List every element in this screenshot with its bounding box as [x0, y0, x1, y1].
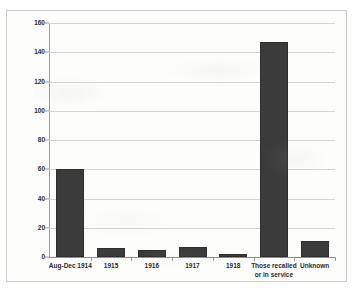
bar: [97, 248, 125, 257]
bar: [138, 250, 166, 257]
bar: [260, 42, 288, 257]
y-axis-tick-marks: [7, 23, 51, 257]
x-axis-tick-label: Unknown: [288, 262, 341, 271]
x-axis-tick-mark: [294, 257, 295, 261]
x-axis-tick-mark: [213, 257, 214, 261]
bar: [56, 169, 84, 257]
x-axis-tick-labels: Aug-Dec 19141915191619171918Those recall…: [50, 262, 335, 286]
bar-series: [50, 23, 335, 257]
x-axis-tick-mark: [131, 257, 132, 261]
x-axis-tick-mark: [172, 257, 173, 261]
bar: [179, 247, 207, 257]
x-axis-tick-mark: [91, 257, 92, 261]
bar: [301, 241, 329, 257]
x-axis-tick-mark: [335, 257, 336, 261]
x-axis-tick-mark: [254, 257, 255, 261]
chart-frame: 020406080100120140160 Aug-Dec 1914191519…: [6, 10, 347, 282]
